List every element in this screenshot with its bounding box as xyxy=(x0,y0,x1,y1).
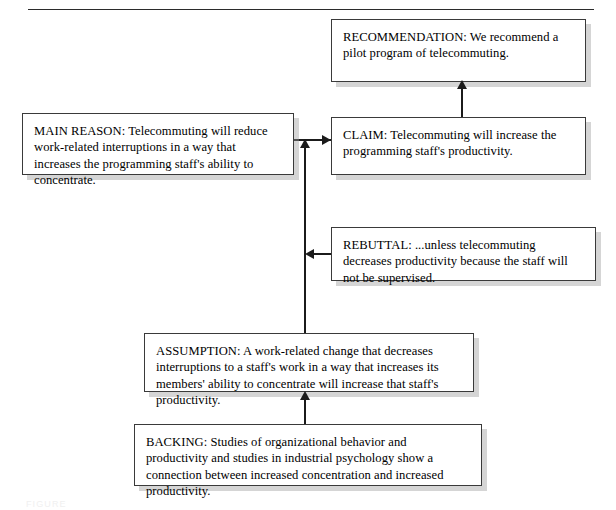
node-claim-text: CLAIM: Telecommuting will increase the p… xyxy=(343,127,574,160)
arrowhead-left-icon-rebuttal-to-spine xyxy=(305,249,314,259)
arrowhead-up-icon-backing-to-assumption xyxy=(300,391,310,400)
node-rebuttal-text: REBUTTAL: ...unless telecommuting decrea… xyxy=(343,237,584,286)
top-horizontal-rule xyxy=(28,9,594,10)
arrowhead-right-icon-main-reason-to-claim xyxy=(322,135,331,145)
node-assumption[interactable]: ASSUMPTION: A work-related change that d… xyxy=(144,333,474,392)
node-claim[interactable]: CLAIM: Telecommuting will increase the p… xyxy=(331,117,586,175)
node-backing-text: BACKING: Studies of organizational behav… xyxy=(146,434,470,499)
node-recommendation-text: RECOMMENDATION: We recommend a pilot pro… xyxy=(343,29,574,62)
connector-assumption-to-claim-spine xyxy=(304,146,306,333)
figure-caption: FIGURE xyxy=(26,499,67,510)
arrowhead-up-icon-assumption-to-claim xyxy=(300,139,310,148)
node-rebuttal[interactable]: REBUTTAL: ...unless telecommuting decrea… xyxy=(331,227,596,281)
connector-rebuttal-to-spine xyxy=(313,253,333,255)
node-backing[interactable]: BACKING: Studies of organizational behav… xyxy=(134,424,482,486)
connector-claim-to-recommendation xyxy=(461,86,463,118)
node-main-reason-text: MAIN REASON: Telecommuting will reduce w… xyxy=(34,123,282,188)
diagram-canvas: RECOMMENDATION: We recommend a pilot pro… xyxy=(0,0,616,510)
arrowhead-up-icon-claim-to-recommendation xyxy=(457,80,467,89)
node-recommendation[interactable]: RECOMMENDATION: We recommend a pilot pro… xyxy=(331,19,586,82)
node-main-reason[interactable]: MAIN REASON: Telecommuting will reduce w… xyxy=(22,113,294,175)
